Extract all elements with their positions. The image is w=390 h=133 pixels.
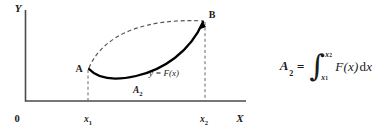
y-axis-label: Y bbox=[15, 2, 23, 14]
integral-lower-limit-sub: 1 bbox=[325, 75, 328, 81]
dashed-path-curve bbox=[89, 21, 204, 68]
tick-label-x2-sub: 2 bbox=[205, 119, 208, 126]
integral-lower-limit: x1 bbox=[321, 73, 328, 82]
tick-label-x1: x1 bbox=[83, 114, 92, 126]
point-b-label: B bbox=[209, 9, 216, 20]
integral-upper-limit-sub: 2 bbox=[329, 52, 332, 58]
area-label-base: A bbox=[132, 85, 139, 95]
area-label-sub: 2 bbox=[139, 90, 142, 97]
differential-variable: x bbox=[366, 59, 372, 75]
point-a-label: A bbox=[75, 63, 83, 74]
curve-equation-label: y = F(x) bbox=[148, 68, 179, 78]
solid-path-curve bbox=[89, 22, 203, 79]
origin-label: 0 bbox=[14, 113, 19, 124]
area-label: A2 bbox=[132, 85, 143, 97]
tick-label-x1-sub: 1 bbox=[89, 119, 92, 126]
tick-label-x2: x2 bbox=[199, 114, 208, 126]
integral-upper-limit: x2 bbox=[325, 50, 332, 59]
formula-lhs-subscript: 2 bbox=[289, 69, 293, 78]
formula-equals-sign: = bbox=[297, 59, 305, 75]
integral-operator: ∫ x2 x1 bbox=[310, 52, 332, 82]
formula-panel: A2 = ∫ x2 x1 F(x)dx bbox=[262, 0, 390, 133]
figure-panel: Y X 0 x1 x2 A B y = F(x) A2 bbox=[0, 0, 260, 133]
formula-lhs-base: A bbox=[280, 58, 289, 73]
formula-lhs: A2 bbox=[280, 58, 293, 76]
integrand-function: F bbox=[335, 59, 343, 75]
integral-area-diagram: Y X 0 x1 x2 A B y = F(x) A2 bbox=[0, 0, 260, 133]
x-axis-label: X bbox=[235, 112, 244, 124]
integral-formula: A2 = ∫ x2 x1 F(x)dx bbox=[280, 52, 372, 82]
integral-limits: x2 x1 bbox=[324, 51, 331, 81]
integrand-paren-close: ) bbox=[354, 59, 359, 75]
